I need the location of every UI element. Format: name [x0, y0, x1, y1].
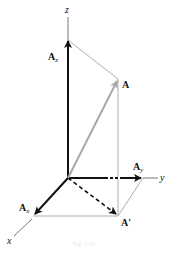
az-label: Az	[48, 51, 58, 64]
figure-caption: Fig. 2-25	[73, 241, 95, 247]
az-to-a-line	[68, 40, 118, 79]
ay-label: Ay	[133, 161, 144, 174]
construction-lines	[33, 40, 143, 216]
ax-arrow	[35, 178, 68, 214]
a-vector-label: A	[122, 79, 130, 90]
aprime-label: A'	[121, 217, 131, 228]
x-axis-label: x	[6, 235, 12, 246]
y-axis-label: y	[159, 172, 165, 183]
component-vectors	[35, 41, 141, 214]
ax-label: Ax	[19, 202, 30, 215]
aprime-to-ay-line	[118, 178, 143, 216]
axes	[14, 17, 158, 236]
ax-label-sub: x	[25, 207, 30, 215]
az-label-sub: z	[54, 56, 58, 64]
aprime-arrow	[68, 178, 116, 214]
z-axis-label: z	[64, 4, 69, 15]
x-axis-line	[14, 219, 32, 236]
a-resultant-arrow	[68, 81, 117, 178]
ay-label-sub: y	[139, 166, 144, 174]
vector-diagram: z y x A Az Ay Ax A' Fig. 2-25	[0, 0, 173, 253]
